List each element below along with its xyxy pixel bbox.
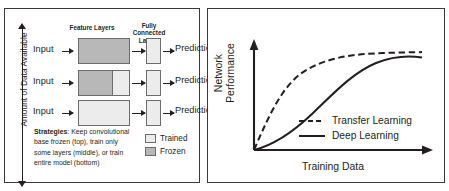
data-available-axis-label: Amount of Data Available bbox=[20, 14, 29, 146]
feature-segment-frozen bbox=[79, 71, 113, 95]
strategies-caption: Strategies: Keep convolutional base froz… bbox=[34, 127, 134, 168]
input-label: Input bbox=[33, 44, 53, 54]
arrow-right-icon bbox=[163, 113, 174, 114]
arrow-right-icon bbox=[163, 83, 174, 84]
legend-item-label: Frozen bbox=[160, 147, 185, 156]
fully-connected-box bbox=[146, 70, 161, 96]
data-available-axis: Amount of Data Available bbox=[14, 23, 32, 187]
fully-connected-box bbox=[146, 38, 161, 64]
strategies-caption-heading: Strategies bbox=[34, 128, 67, 135]
legend-item-label: Transfer Learning bbox=[332, 115, 412, 126]
solid-line-swatch bbox=[299, 131, 325, 141]
feature-layers-box bbox=[78, 100, 130, 126]
y-axis-label: Network Performance bbox=[213, 19, 237, 127]
input-label: Input bbox=[33, 76, 53, 86]
trained-frozen-legend: Trained Frozen bbox=[145, 134, 201, 159]
arrow-right-icon bbox=[132, 113, 145, 114]
legend-item-label: Trained bbox=[160, 134, 187, 143]
arrow-right-icon bbox=[132, 51, 145, 52]
legend-item-deep-learning: Deep Learning bbox=[299, 128, 412, 143]
right-panel-performance-chart: Network Performance Training Data Transf… bbox=[207, 8, 445, 183]
network-row: Input Prediction bbox=[33, 36, 201, 66]
x-axis-arrow-icon bbox=[422, 146, 433, 155]
trained-swatch bbox=[145, 134, 156, 143]
feature-segment-trained bbox=[79, 101, 129, 125]
chart-plot-area bbox=[208, 9, 446, 184]
arrow-right-icon bbox=[62, 113, 73, 114]
y-axis-label-line1: Network bbox=[213, 54, 224, 92]
feature-layers-header: Feature Layers bbox=[62, 24, 122, 31]
left-panel-strategies: Amount of Data Available Feature Layers … bbox=[4, 8, 200, 183]
feature-layers-box bbox=[78, 70, 130, 96]
y-axis-arrow-icon bbox=[250, 39, 259, 50]
performance-line-chart: Network Performance Training Data Transf… bbox=[208, 9, 446, 184]
input-label: Input bbox=[33, 106, 53, 116]
legend-item-trained: Trained bbox=[145, 134, 201, 143]
legend-item-label: Deep Learning bbox=[332, 130, 399, 141]
y-axis-label-line2: Performance bbox=[225, 43, 236, 102]
legend-item-transfer-learning: Transfer Learning bbox=[299, 113, 412, 128]
network-row: Input Prediction bbox=[33, 98, 201, 128]
feature-segment-frozen bbox=[79, 39, 129, 63]
legend-item-frozen: Frozen bbox=[145, 147, 201, 156]
arrow-right-icon bbox=[132, 83, 145, 84]
frozen-swatch bbox=[145, 147, 156, 156]
x-axis-label: Training Data bbox=[263, 161, 403, 172]
arrow-down-icon bbox=[18, 181, 26, 187]
arrow-right-icon bbox=[62, 83, 73, 84]
feature-layers-box bbox=[78, 38, 130, 64]
fully-connected-box bbox=[146, 100, 161, 126]
network-row: Input Prediction bbox=[33, 68, 201, 98]
dashed-line-swatch bbox=[299, 116, 325, 126]
feature-segment-trained bbox=[113, 71, 129, 95]
arrow-right-icon bbox=[62, 51, 73, 52]
figure-transfer-learning-overview: Amount of Data Available Feature Layers … bbox=[0, 0, 449, 191]
arrow-right-icon bbox=[163, 51, 174, 52]
chart-legend: Transfer Learning Deep Learning bbox=[299, 113, 412, 143]
